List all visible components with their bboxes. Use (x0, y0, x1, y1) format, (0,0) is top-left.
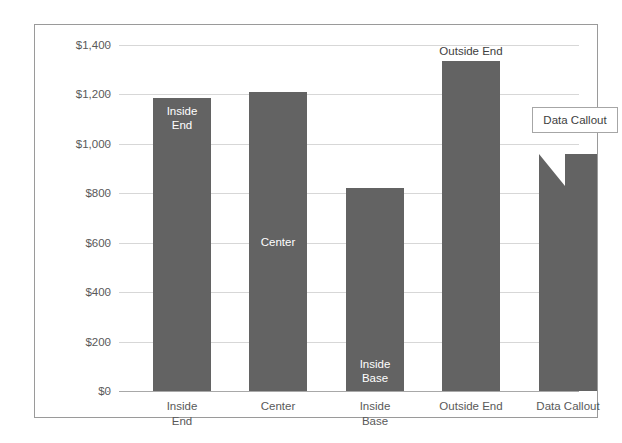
category-label-data-callout: Data Callout (521, 399, 615, 414)
tick-mark-400 (107, 292, 111, 293)
bar-inside-base[interactable]: Inside Base (346, 188, 404, 391)
bar-data-callout[interactable] (539, 154, 597, 391)
value-axis: $1,400 $1,200 $1,000 $800 $600 $400 $200… (35, 45, 111, 391)
tick-mark-1000 (107, 144, 111, 145)
gridline-1200 (119, 94, 579, 95)
bar-center[interactable]: Center (249, 92, 307, 391)
tick-mark-1200 (107, 94, 111, 95)
tick-mark-0 (107, 391, 111, 392)
bar-outside-end[interactable] (442, 61, 500, 391)
chart-plot-frame[interactable]: $1,400 $1,200 $1,000 $800 $600 $400 $200… (34, 24, 598, 418)
plot-area: Inside End Center Inside Base Outside En… (119, 45, 579, 391)
category-axis-line (119, 391, 579, 392)
data-label-inside-end: Inside End (153, 104, 211, 132)
category-axis-labels: Inside End Center Inside Base Outside En… (119, 395, 579, 435)
category-label-inside-base: Inside Base (336, 399, 414, 429)
callout-tail (539, 154, 565, 186)
bar-inside-end[interactable]: Inside End (153, 98, 211, 391)
y-tick-label-1200: $1,200 (76, 88, 111, 100)
tick-mark-800 (107, 193, 111, 194)
category-label-center: Center (239, 399, 317, 414)
category-label-outside-end: Outside End (424, 399, 518, 414)
data-label-outside-end: Outside End (422, 44, 520, 58)
y-tick-label-1400: $1,400 (76, 39, 111, 51)
data-callout-bubble[interactable]: Data Callout (532, 107, 618, 133)
tick-mark-200 (107, 342, 111, 343)
y-tick-label-1000: $1,000 (76, 138, 111, 150)
data-label-inside-base: Inside Base (346, 357, 404, 385)
tick-mark-600 (107, 243, 111, 244)
data-label-center: Center (249, 235, 307, 249)
tick-mark-1400 (107, 45, 111, 46)
category-label-inside-end: Inside End (143, 399, 221, 429)
